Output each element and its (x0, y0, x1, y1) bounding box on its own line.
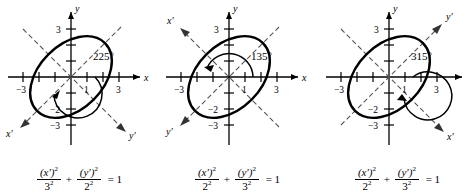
y-prime-arrowhead (180, 116, 190, 126)
panel-2: x y x′ y′ 135° −3 1 3 3 −2 −3 (x′)2 22 +… (158, 0, 316, 194)
formula-term-2: (y′)2 32 (395, 167, 419, 192)
numerator-1-exponent: 2 (55, 165, 59, 173)
x-prime-axis-label: x′ (5, 128, 13, 139)
formula-denominator-1: 22 (195, 180, 219, 192)
x-axis-label: x (301, 72, 307, 83)
y-axis-arrowhead (226, 12, 232, 19)
x-axis-arrowhead (455, 74, 462, 80)
x-axis-label: x (143, 72, 149, 83)
x-tick-label-neg3: −3 (334, 85, 344, 95)
formula-operator: + (65, 174, 73, 185)
numerator-1-base: (x′) (198, 166, 213, 178)
formula-equals: = 1 (105, 174, 122, 185)
x-tick-label-3: 3 (274, 85, 279, 95)
angle-arc-arrowhead (397, 94, 407, 101)
numerator-2-base: (y′) (80, 166, 95, 178)
formula-numerator-2: (y′)2 (395, 167, 419, 180)
formula-numerator-2: (y′)2 (77, 167, 101, 180)
formula-denominator-2: 32 (395, 180, 419, 192)
numerator-2-exponent: 2 (412, 165, 416, 173)
y-axis-label: y (232, 3, 238, 14)
y-tick-label-3: 3 (374, 25, 379, 35)
x-prime-arrowhead (180, 28, 190, 37)
y-tick-label-3: 3 (214, 25, 219, 35)
y-tick-label-neg2: −2 (208, 105, 218, 115)
denominator-1-exponent: 2 (208, 179, 212, 187)
formula-numerator-1: (x′)2 (355, 167, 379, 180)
formula-numerator-1: (x′)2 (195, 167, 219, 180)
rotated-conics-figure: x y x′ y′ 225° −3 1 3 3 −2 −3 (x′)2 32 +… (0, 0, 476, 194)
formula-term-1: (x′)2 32 (37, 167, 61, 192)
formula-numerator-2: (y′)2 (235, 167, 259, 180)
formula-operator: + (383, 174, 391, 185)
angle-label: 225° (93, 50, 114, 62)
numerator-1-exponent: 2 (373, 165, 377, 173)
x-prime-arrowhead (20, 119, 30, 128)
y-axis-arrowhead (386, 12, 392, 19)
angle-arc (207, 54, 253, 77)
y-tick-label-neg2: −2 (368, 105, 378, 115)
y-prime-arrowhead (116, 123, 126, 132)
formula-equals: = 1 (423, 174, 440, 185)
panel-3: y y′ x′ 315° −3 1 3 3 −2 −3 (x′)2 22 + (… (318, 0, 476, 194)
x-axis-arrowhead (291, 74, 298, 80)
x-tick-label-1: 1 (242, 85, 247, 95)
formula-denominator-1: 32 (37, 180, 61, 192)
y-tick-label-neg3: −3 (50, 121, 60, 131)
panel-3-graph: y y′ x′ 315° −3 1 3 3 −2 −3 (318, 0, 476, 152)
angle-label: 315° (411, 50, 432, 62)
numerator-2-base: (y′) (238, 166, 253, 178)
numerator-1-base: (x′) (358, 166, 373, 178)
x-prime-arrowhead (434, 123, 444, 132)
y-axis-arrowhead (68, 12, 74, 19)
formula-term-2: (y′)2 32 (235, 167, 259, 192)
y-tick-label-neg3: −3 (368, 121, 378, 131)
formula-term-2: (y′)2 22 (77, 167, 101, 192)
rotated-axes-group (20, 27, 126, 132)
formula-equals: = 1 (263, 174, 280, 185)
panel-1-formula: (x′)2 32 + (y′)2 22 = 1 (0, 167, 158, 192)
angle-arc-arrowhead (204, 65, 214, 72)
panel-1-graph: x y x′ y′ 225° −3 1 3 3 −2 −3 (0, 0, 158, 152)
axes-group (326, 12, 462, 145)
formula-term-1: (x′)2 22 (195, 167, 219, 192)
formula-denominator-2: 32 (235, 180, 259, 192)
angle-label: 135° (251, 50, 272, 62)
numerator-2-base: (y′) (398, 166, 413, 178)
x-tick-label-1: 1 (402, 85, 407, 95)
numerator-2-exponent: 2 (252, 165, 256, 173)
angle-arc (404, 72, 452, 120)
x-axis-arrowhead (133, 74, 140, 80)
formula-denominator-2: 22 (77, 180, 101, 192)
x-tick-label-neg3: −3 (174, 85, 184, 95)
y-tick-label-neg3: −3 (208, 121, 218, 131)
formula-operator: + (223, 174, 231, 185)
y-tick-label-3: 3 (56, 25, 61, 35)
panel-2-graph: x y x′ y′ 135° −3 1 3 3 −2 −3 (158, 0, 316, 152)
denominator-2-exponent: 2 (90, 179, 94, 187)
panel-3-formula: (x′)2 22 + (y′)2 32 = 1 (318, 167, 476, 192)
x-tick-label-3: 3 (116, 85, 121, 95)
panel-1: x y x′ y′ 225° −3 1 3 3 −2 −3 (x′)2 32 +… (0, 0, 158, 194)
panel-2-formula: (x′)2 22 + (y′)2 32 = 1 (158, 167, 316, 192)
y-tick-label-neg2: −2 (50, 105, 60, 115)
denominator-2-exponent: 2 (408, 179, 412, 187)
y-prime-axis-label: y′ (445, 11, 453, 22)
x-prime-axis-label: x′ (446, 131, 454, 142)
denominator-1-exponent: 2 (368, 179, 372, 187)
numerator-1-exponent: 2 (213, 165, 217, 173)
x-tick-label-neg3: −3 (16, 85, 26, 95)
formula-numerator-1: (x′)2 (37, 167, 61, 180)
formula-term-1: (x′)2 22 (355, 167, 379, 192)
y-prime-axis-label: y′ (128, 130, 136, 141)
x-tick-label-1: 1 (84, 85, 89, 95)
x-prime-axis-label: x′ (166, 15, 174, 26)
denominator-1-exponent: 2 (50, 179, 54, 187)
numerator-1-base: (x′) (40, 166, 55, 178)
x-tick-label-3: 3 (434, 85, 439, 95)
denominator-2-exponent: 2 (248, 179, 252, 187)
y-axis-label: y (392, 3, 398, 14)
formula-denominator-1: 22 (355, 180, 379, 192)
numerator-2-exponent: 2 (94, 165, 98, 173)
y-axis-label: y (74, 3, 80, 14)
